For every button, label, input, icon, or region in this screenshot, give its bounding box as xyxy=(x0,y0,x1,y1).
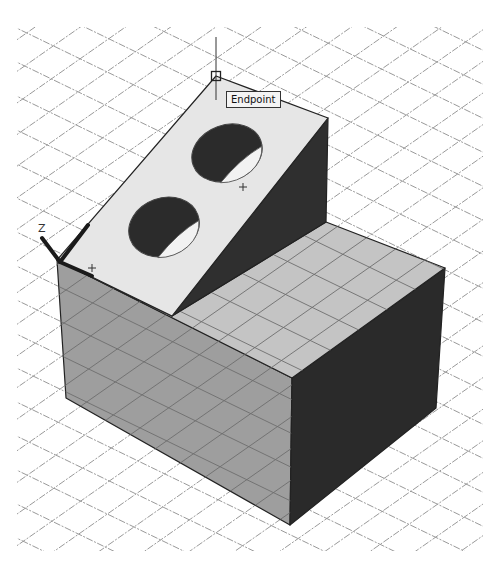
face-grid-line xyxy=(0,564,502,579)
solid-model[interactable] xyxy=(0,0,502,579)
face-grid-line xyxy=(0,554,502,579)
face-grid-line xyxy=(0,530,502,579)
face-grid-line xyxy=(0,522,502,579)
grid-line xyxy=(0,0,502,20)
face-grid-line xyxy=(0,0,502,83)
face-grid-line xyxy=(0,0,502,93)
face-grid-line xyxy=(0,564,502,579)
face-grid-line xyxy=(0,0,502,93)
grid-line xyxy=(0,0,502,83)
face-grid-line xyxy=(0,0,502,52)
3d-model-canvas[interactable]: Z xyxy=(0,0,502,579)
ucs-z-axis xyxy=(42,238,60,262)
grid-line xyxy=(0,554,502,579)
face-grid-line xyxy=(0,491,502,579)
cad-viewport[interactable]: Z Endpoint xyxy=(0,0,502,579)
face-grid-line xyxy=(0,0,502,59)
face-grid-line xyxy=(0,0,502,52)
grid-line xyxy=(0,0,502,52)
face-grid-line xyxy=(0,530,502,579)
face-grid-line xyxy=(0,0,502,20)
face-grid-line xyxy=(0,0,502,83)
face-grid-line xyxy=(0,522,502,579)
endpoint-snap-tooltip: Endpoint xyxy=(226,91,281,108)
face-grid-line xyxy=(0,0,502,59)
ucs-z-label: Z xyxy=(38,222,46,235)
face-grid-line xyxy=(0,554,502,579)
grid-line xyxy=(0,491,502,579)
grid-line xyxy=(0,0,502,93)
face-grid-line xyxy=(0,0,502,25)
grid-line xyxy=(0,522,502,579)
grid-line xyxy=(0,564,502,579)
grid-line xyxy=(0,0,502,59)
face-grid-line xyxy=(0,491,502,579)
grid-line xyxy=(0,530,502,579)
grid-line xyxy=(0,0,502,25)
face-grid-line xyxy=(0,0,502,20)
face-grid-line xyxy=(0,0,502,25)
